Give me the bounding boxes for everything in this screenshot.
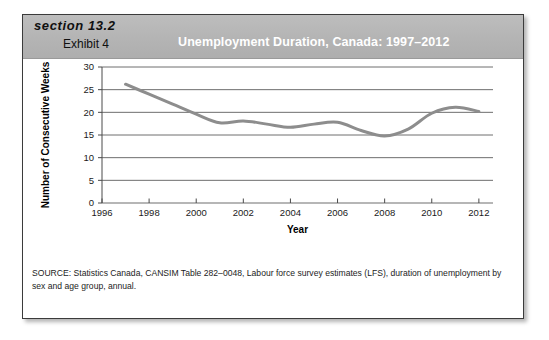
xtick-label: 2010 (421, 207, 442, 218)
ytick-label: 10 (83, 152, 94, 163)
data-series-line (126, 84, 479, 136)
xtick-label: 1998 (139, 207, 160, 218)
xtick-label: 1996 (91, 207, 112, 218)
ytick-label: 5 (89, 175, 94, 186)
chart-plot-area: 0510152025301996199820002002200420062008… (23, 59, 523, 259)
exhibit-header: section 13.2 Exhibit 4 Unemployment Dura… (23, 15, 523, 59)
xtick-label: 2008 (374, 207, 395, 218)
exhibit-number-label: Exhibit 4 (63, 37, 109, 51)
exhibit-title: Unemployment Duration, Canada: 1997–2012 (178, 35, 449, 49)
xtick-label: 2012 (468, 207, 489, 218)
exhibit-card: section 13.2 Exhibit 4 Unemployment Dura… (22, 14, 524, 319)
ytick-label: 30 (83, 61, 94, 72)
ytick-label: 20 (83, 107, 94, 118)
ytick-label: 25 (83, 84, 94, 95)
line-chart: 0510152025301996199820002002200420062008… (23, 59, 523, 259)
xtick-label: 2002 (233, 207, 254, 218)
xtick-label: 2004 (280, 207, 301, 218)
xtick-label: 2006 (327, 207, 348, 218)
y-axis-title: Number of Consecutive Weeks (40, 61, 51, 208)
ytick-label: 15 (83, 129, 94, 140)
source-note: SOURCE: Statistics Canada, CANSIM Table … (32, 267, 509, 294)
xtick-label: 2000 (186, 207, 207, 218)
section-label: section 13.2 (34, 18, 116, 33)
x-axis-title: Year (287, 224, 308, 235)
